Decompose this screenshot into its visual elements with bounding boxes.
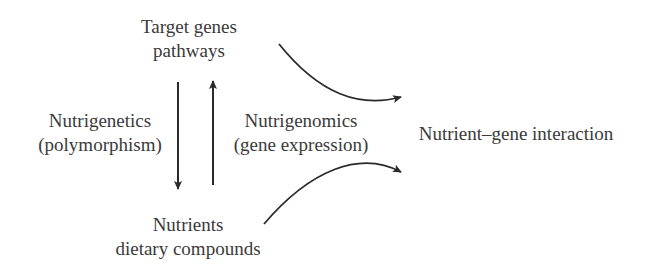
label-nutrigenomics: Nutrigenomics (gene expression) — [226, 109, 376, 157]
curve-arrow-nutrients-to-interaction — [264, 163, 401, 224]
node-nutrients-line2: dietary compounds — [100, 237, 276, 261]
node-target-genes: Target genes pathways — [134, 15, 244, 63]
nutrigenetics-line1: Nutrigenetics — [30, 109, 170, 133]
nutrigenomics-line2: (gene expression) — [226, 133, 376, 157]
node-target-line2: pathways — [134, 39, 244, 63]
label-nutrigenetics: Nutrigenetics (polymorphism) — [30, 109, 170, 157]
node-target-line1: Target genes — [134, 15, 244, 39]
nutrigenetics-line2: (polymorphism) — [30, 133, 170, 157]
node-nutrients-line1: Nutrients — [100, 213, 276, 237]
curve-arrow-target-to-interaction — [279, 44, 401, 101]
interaction-line1: Nutrient–gene interaction — [391, 122, 641, 146]
node-nutrient-gene-interaction: Nutrient–gene interaction — [391, 122, 641, 146]
nutrigenomics-line1: Nutrigenomics — [226, 109, 376, 133]
node-nutrients: Nutrients dietary compounds — [100, 213, 276, 261]
